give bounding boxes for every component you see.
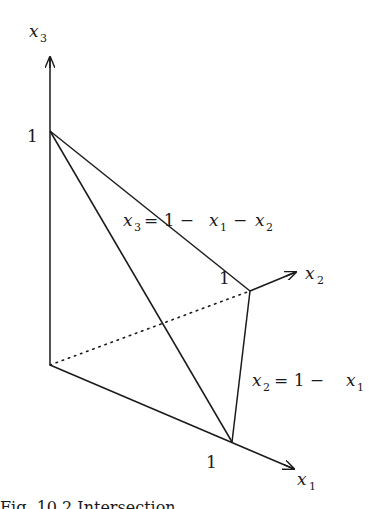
svg-text:x: x	[255, 210, 265, 230]
svg-text:2: 2	[263, 381, 270, 394]
x2-axis-arrow	[250, 272, 296, 291]
simplex-diagram: x 3 x 2 x 1 1 1 1 x 3 = 1 − x 1 − x 2 x …	[0, 0, 391, 509]
figure-caption-cutoff: Fig. 10.2 Intersection ...	[0, 496, 391, 509]
svg-text:1: 1	[309, 480, 316, 493]
svg-text:x: x	[29, 21, 39, 41]
svg-text:2: 2	[317, 274, 324, 287]
svg-text:x: x	[209, 210, 219, 230]
x3-axis-label: x 3	[29, 21, 47, 45]
x1-axis-label: x 1	[297, 469, 316, 493]
svg-text:= 1 −: = 1 −	[274, 370, 324, 390]
svg-text:x: x	[297, 469, 307, 489]
x2-tick-one: 1	[219, 268, 230, 288]
svg-text:3: 3	[40, 32, 47, 45]
x1-tick-one: 1	[206, 452, 217, 472]
svg-text:x: x	[123, 210, 133, 230]
x2-axis-label: x 2	[305, 263, 324, 287]
svg-text:x: x	[252, 370, 262, 390]
line-equation: x 2 = 1 − x 1	[252, 370, 364, 394]
svg-text:1: 1	[357, 381, 364, 394]
svg-text:x: x	[346, 370, 356, 390]
edge-x2-x1	[232, 291, 250, 442]
edge-x3-x1	[50, 131, 232, 442]
x3-tick-one: 1	[27, 126, 38, 146]
svg-text:3: 3	[134, 221, 141, 234]
svg-text:x: x	[305, 263, 315, 283]
svg-text:= 1 −: = 1 −	[144, 210, 194, 230]
svg-text:2: 2	[266, 221, 273, 234]
svg-text:1: 1	[220, 221, 227, 234]
svg-text:−: −	[233, 210, 247, 230]
plane-equation: x 3 = 1 − x 1 − x 2	[123, 210, 273, 234]
